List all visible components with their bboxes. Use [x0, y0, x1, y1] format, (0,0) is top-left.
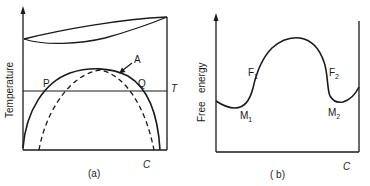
panel-a-label-q: Q — [138, 78, 146, 89]
panel-b-label-m2: M2 — [328, 107, 340, 120]
panel-a-label-a: A — [134, 54, 141, 65]
panel-a-label-p: P — [43, 78, 50, 89]
panel-a-y-axis-arrow-icon — [21, 6, 26, 14]
panel-b-label-f2-sub: 2 — [335, 73, 339, 80]
panel-b-label-f2: F2 — [329, 67, 339, 80]
phase-diagram-figure: Temperature P Q T A C (a) Free energy F1… — [0, 0, 370, 186]
panel-b-label-m2-sub: 2 — [336, 113, 340, 120]
panel-a-arrow-a — [123, 63, 132, 70]
panel-a-liquidus-curve — [24, 17, 167, 39]
panel-b — [214, 13, 360, 152]
panel-b-caption: ( b) — [270, 169, 285, 180]
panel-b-y-axis-label: Free energy — [196, 63, 207, 122]
panel-b-label-f1-sub: 1 — [254, 73, 258, 80]
panel-a-solidus-curve — [24, 17, 167, 43]
panel-b-label-m1-sub: 1 — [248, 116, 252, 123]
panel-b-y-axis-arrow-icon — [214, 13, 219, 21]
panel-b-label-m1: M1 — [240, 110, 252, 123]
panel-b-x-axis-label: C — [343, 161, 351, 172]
panel-a-label-t: T — [171, 83, 178, 94]
panel-b-label-m2-base: M — [328, 107, 336, 118]
panel-a-y-axis-label: Temperature — [4, 61, 15, 118]
panel-b-label-f1: F1 — [248, 67, 258, 80]
panel-a-caption: (a) — [88, 168, 100, 179]
panel-b-label-m1-base: M — [240, 110, 248, 121]
panel-a-x-axis-label: C — [143, 159, 151, 170]
